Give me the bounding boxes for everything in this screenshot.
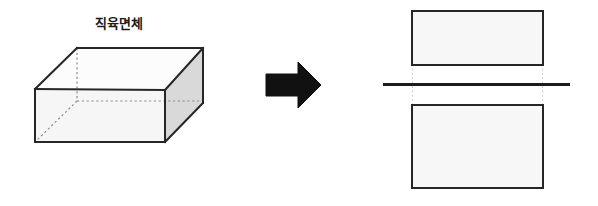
figure-root: 직육면체 xyxy=(0,0,598,206)
top-front-edge xyxy=(35,89,165,90)
cuboid-front-face xyxy=(35,89,165,142)
rectangular-cuboid-group xyxy=(35,48,203,142)
geometry-figure-canvas xyxy=(0,0,598,206)
top-rectangle xyxy=(412,11,543,65)
bottom-rectangle xyxy=(412,105,543,188)
cuboid-title-label: 직육면체 xyxy=(0,17,238,30)
separated-rectangles-group xyxy=(383,11,570,188)
right-arrow-icon xyxy=(266,62,321,108)
